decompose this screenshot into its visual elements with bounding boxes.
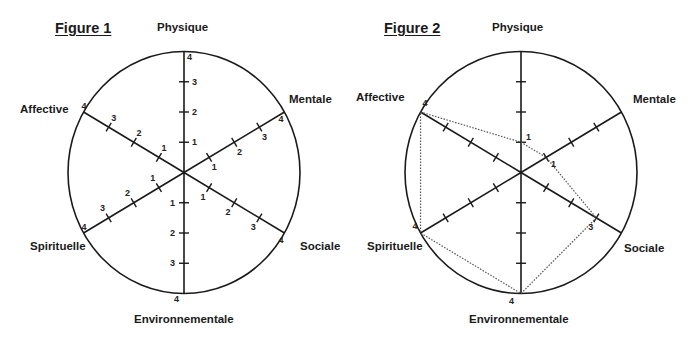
figure-2: Figure 2 Physique Mentale Sociale Enviro…	[349, 0, 698, 339]
tick-mark	[443, 123, 448, 132]
value-label: 4	[423, 98, 428, 108]
tick-mark	[594, 123, 599, 132]
tick-label: 1	[150, 173, 155, 183]
tick-label: 3	[192, 77, 197, 87]
figure-1: Figure 1 Physique Mentale Sociale Enviro…	[0, 0, 349, 339]
tick-mark	[156, 153, 161, 162]
tick-mark	[106, 123, 111, 132]
tick-label: 1	[212, 162, 217, 172]
tick-mark	[569, 138, 574, 147]
tick-label: 2	[237, 147, 242, 157]
tick-label: 3	[111, 113, 116, 123]
tick-mark	[207, 183, 212, 192]
tick-mark	[207, 153, 212, 162]
tick-label: 2	[226, 207, 231, 217]
tick-label: 4	[278, 114, 283, 124]
tick-mark	[569, 198, 574, 207]
tick-label: 3	[251, 222, 256, 232]
tick-mark	[493, 183, 498, 192]
tick-mark	[594, 214, 599, 223]
tick-label: 1	[192, 137, 197, 147]
tick-label: 4	[82, 222, 87, 232]
tick-mark	[468, 198, 473, 207]
tick-label: 4	[82, 101, 87, 111]
tick-label: 4	[174, 294, 179, 304]
tick-mark	[232, 138, 237, 147]
radar-chart-2: 113444	[349, 0, 698, 339]
radar-chart-1: 123412341234123412341234	[0, 0, 349, 339]
tick-mark	[443, 214, 448, 223]
value-label: 4	[509, 296, 514, 306]
tick-mark	[232, 198, 237, 207]
tick-mark	[156, 183, 161, 192]
tick-mark	[131, 138, 136, 147]
tick-label: 2	[125, 188, 130, 198]
value-label: 1	[526, 132, 531, 142]
tick-label: 2	[170, 228, 175, 238]
tick-mark	[257, 214, 262, 223]
tick-mark	[493, 153, 498, 162]
tick-label: 3	[262, 132, 267, 142]
tick-mark	[257, 123, 262, 132]
tick-label: 4	[187, 52, 192, 62]
value-label: 4	[413, 221, 418, 231]
tick-label: 1	[170, 198, 175, 208]
value-label: 1	[551, 159, 556, 169]
tick-label: 2	[136, 128, 141, 138]
tick-label: 3	[100, 203, 105, 213]
value-label: 3	[588, 222, 593, 232]
tick-mark	[544, 153, 549, 162]
tick-label: 4	[278, 235, 283, 245]
tick-label: 2	[192, 107, 197, 117]
tick-label: 1	[162, 143, 167, 153]
tick-mark	[106, 214, 111, 223]
tick-mark	[468, 138, 473, 147]
tick-label: 3	[170, 258, 175, 268]
tick-label: 1	[200, 192, 205, 202]
tick-mark	[544, 183, 549, 192]
tick-mark	[131, 198, 136, 207]
